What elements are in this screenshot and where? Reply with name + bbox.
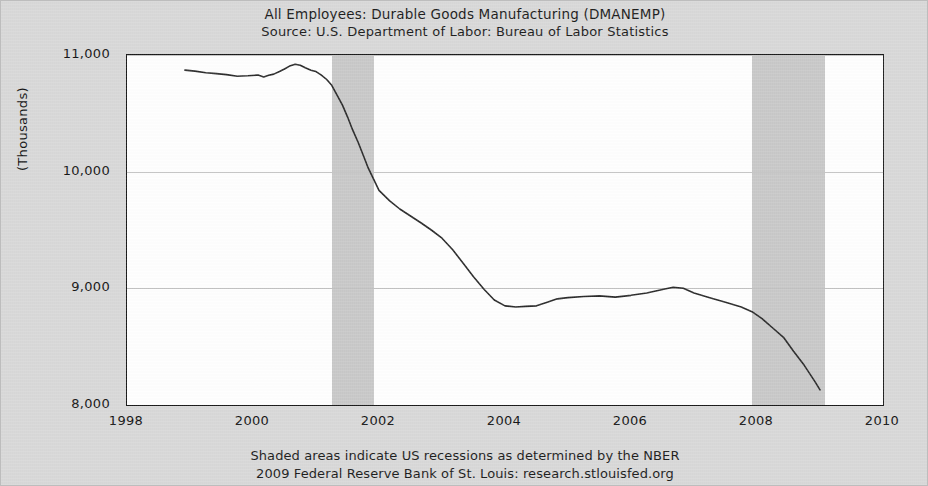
x-axis-tick-label: 2000 [217,413,287,428]
chart-footer-line-1: Shaded areas indicate US recessions as d… [1,447,928,465]
chart-title-block: All Employees: Durable Goods Manufacturi… [1,6,928,40]
chart-title-line-1: All Employees: Durable Goods Manufacturi… [1,6,928,23]
fred-chart-figure: All Employees: Durable Goods Manufacturi… [0,0,928,486]
series-path-dmanemp [185,64,820,390]
chart-footer-line-2: 2009 Federal Reserve Bank of St. Louis: … [1,465,928,483]
x-axis-tick-label: 2010 [847,413,917,428]
chart-title-line-2: Source: U.S. Department of Labor: Bureau… [1,23,928,40]
y-axis-tick-label: 10,000 [1,163,110,178]
x-axis-tick-label: 2004 [469,413,539,428]
plot-area [126,54,884,406]
series-line-dmanemp [127,55,883,405]
x-axis-tick-label: 2002 [343,413,413,428]
y-axis-tick-label: 11,000 [1,46,110,61]
plot-inner [127,55,883,405]
x-axis-tick-label: 2008 [721,413,791,428]
chart-footer-block: Shaded areas indicate US recessions as d… [1,447,928,483]
x-axis-tick-label: 2006 [595,413,665,428]
y-axis-tick-label: 9,000 [1,279,110,294]
x-axis-tick-label: 1998 [91,413,161,428]
y-axis-tick-label: 8,000 [1,396,110,411]
